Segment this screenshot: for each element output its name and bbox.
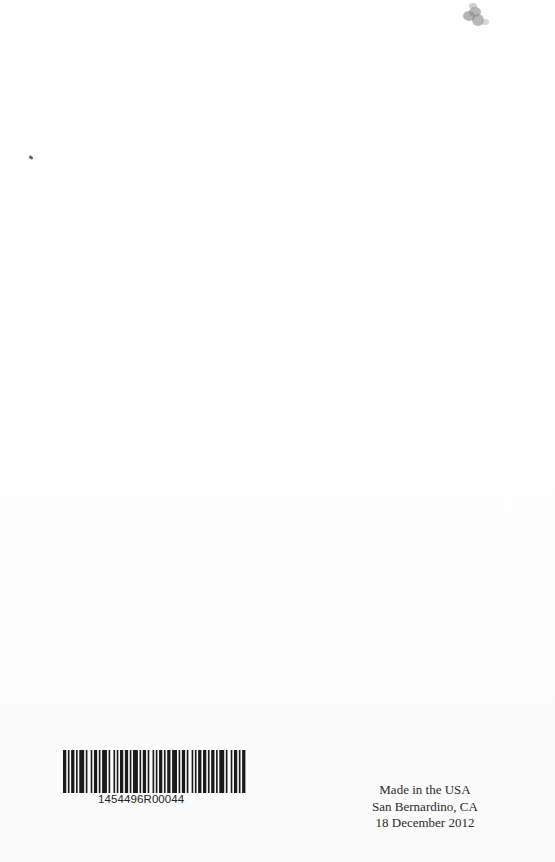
- paper-dust-speck: [28, 155, 34, 160]
- barcode-number: 1454496R00044: [98, 793, 184, 805]
- imprint-origin: Made in the USA: [345, 782, 505, 799]
- imprint-location: San Bernardino, CA: [345, 799, 505, 816]
- printer-imprint: Made in the USA San Bernardino, CA 18 De…: [345, 782, 505, 832]
- imprint-date: 18 December 2012: [345, 815, 505, 832]
- barcode: [63, 750, 247, 793]
- blank-back-page: 1454496R00044 Made in the USA San Bernar…: [0, 0, 555, 862]
- paper-smudge-mark: [455, 2, 495, 32]
